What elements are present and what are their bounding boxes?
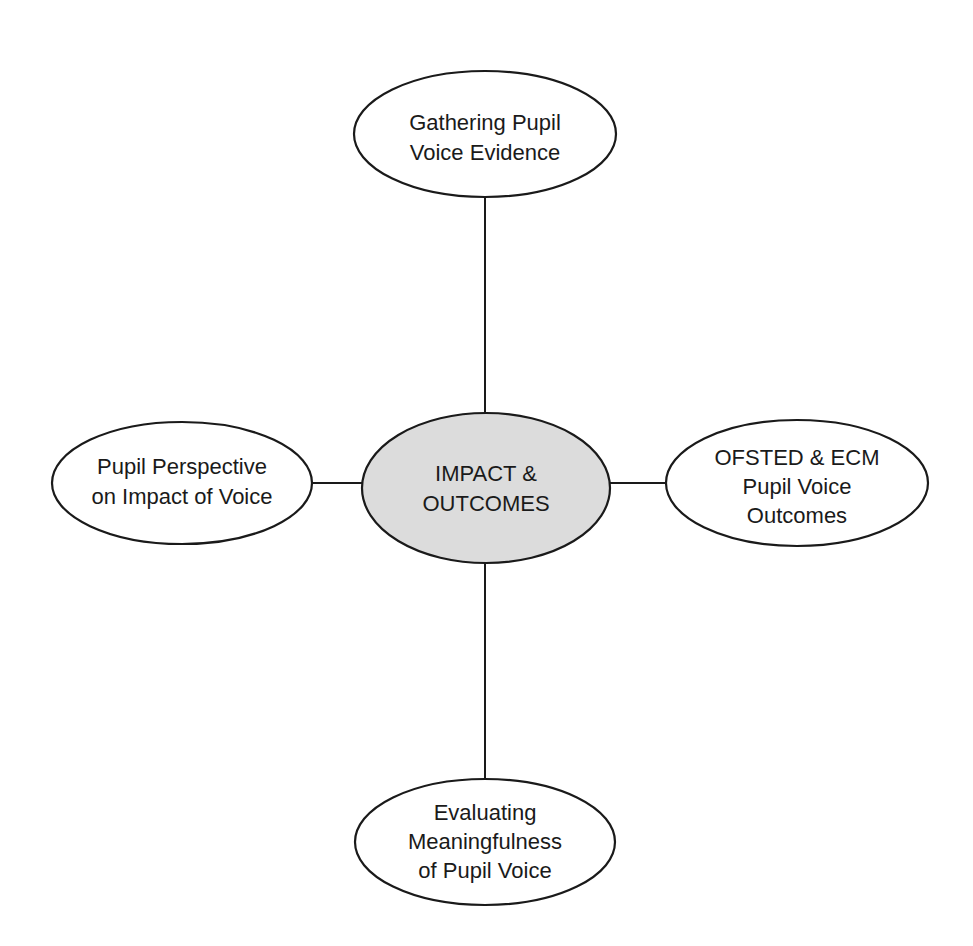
node-left-line-2: on Impact of Voice bbox=[92, 484, 273, 509]
node-pupil-perspective: Pupil Perspective on Impact of Voice bbox=[52, 422, 312, 544]
node-left-line-1: Pupil Perspective bbox=[97, 454, 267, 479]
node-top-line-2: Voice Evidence bbox=[410, 140, 560, 165]
node-center-line-2: OUTCOMES bbox=[422, 491, 549, 516]
node-center-line-1: IMPACT & bbox=[435, 461, 537, 486]
node-evaluating-meaningfulness: Evaluating Meaningfulness of Pupil Voice bbox=[355, 779, 615, 905]
node-bottom-line-3: of Pupil Voice bbox=[418, 858, 551, 883]
node-gathering-pupil-voice-evidence: Gathering Pupil Voice Evidence bbox=[354, 71, 616, 197]
diagram-canvas: Gathering Pupil Voice Evidence IMPACT & … bbox=[0, 0, 973, 946]
node-right-line-1: OFSTED & ECM bbox=[714, 445, 879, 470]
node-left-ellipse bbox=[52, 422, 312, 544]
node-bottom-line-1: Evaluating bbox=[434, 800, 537, 825]
node-ofsted-ecm-outcomes: OFSTED & ECM Pupil Voice Outcomes bbox=[666, 420, 928, 546]
node-top-line-1: Gathering Pupil bbox=[409, 110, 561, 135]
node-center-ellipse bbox=[362, 413, 610, 563]
node-right-line-2: Pupil Voice bbox=[743, 474, 852, 499]
node-impact-outcomes: IMPACT & OUTCOMES bbox=[362, 413, 610, 563]
node-bottom-line-2: Meaningfulness bbox=[408, 829, 562, 854]
node-right-line-3: Outcomes bbox=[747, 503, 847, 528]
